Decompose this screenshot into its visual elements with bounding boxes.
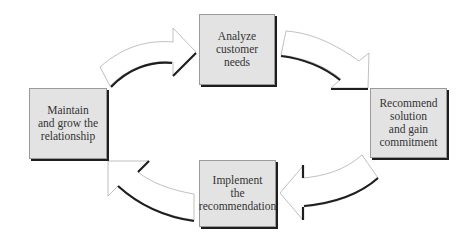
node-label-line: and gain [379, 123, 437, 136]
node-label-line: recommendation [199, 200, 276, 213]
node-label-line: customer [216, 43, 258, 56]
node-label-line: Analyze [216, 30, 258, 43]
node-label-line: solution [379, 110, 437, 123]
sales-cycle-diagram: Analyze customer needs Recommend solutio… [0, 0, 475, 248]
node-recommend-solution: Recommend solution and gain commitment [370, 88, 447, 158]
node-label-line: the [199, 187, 276, 200]
node-analyze-customer-needs: Analyze customer needs [199, 14, 275, 85]
node-label-line: Implement [199, 174, 276, 187]
node-label-line: Recommend [379, 97, 437, 110]
arrow-analyze-to-recommend-icon [281, 31, 369, 89]
arrow-maintain-to-analyze-icon [100, 28, 196, 87]
arrow-recommend-to-implement-icon [280, 155, 378, 220]
node-label-line: Maintain [38, 104, 98, 117]
node-label-line: and grow the [38, 117, 98, 130]
node-label-line: needs [216, 56, 258, 69]
node-label-line: commitment [379, 136, 437, 149]
node-label-line: relationship [38, 130, 98, 143]
arrow-implement-to-maintain-icon [108, 161, 194, 221]
node-maintain-relationship: Maintain and grow the relationship [29, 88, 107, 159]
node-implement-recommendation: Implement the recommendation [199, 160, 276, 227]
